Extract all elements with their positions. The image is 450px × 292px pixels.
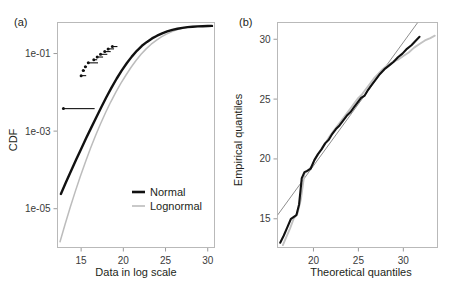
panel-a-xtick-label: 25 — [160, 255, 172, 266]
ecdf-step-marker — [87, 61, 90, 64]
panel-b-frame — [278, 23, 438, 248]
panel-a-xtick-label: 30 — [202, 255, 214, 266]
panel-a-label: (a) — [14, 16, 27, 28]
panel-b-ylabel: Empirical quantiles — [232, 93, 244, 186]
panel-b-xtick-label: 25 — [353, 255, 365, 266]
panel-a-yticks: 1e-011e-031e-05 — [25, 48, 58, 214]
panel-b-svg: (b) Empirical quantiles Theoretical quan… — [225, 0, 450, 292]
panel-a-frame — [58, 23, 215, 248]
panel-b-xticks: 202530 — [308, 248, 409, 266]
ecdf-step-marker — [99, 53, 102, 56]
panel-a-xtick-label: 15 — [76, 255, 88, 266]
panel-b-ytick-label: 30 — [259, 34, 271, 45]
panel-b-ytick-label: 15 — [259, 213, 271, 224]
panel-a-xticks: 15202530 — [76, 248, 214, 266]
panel-b: (b) Empirical quantiles Theoretical quan… — [225, 0, 450, 292]
panel-b-xtick-label: 30 — [398, 255, 410, 266]
panel-a-svg: (a) CDF Data in log scale 1e-011e-031e-0… — [0, 0, 225, 292]
ecdf-step-marker — [111, 45, 114, 48]
ecdf-step-marker — [92, 58, 95, 61]
panel-a-legend: NormalLognormal — [132, 186, 202, 212]
panel-b-plot — [278, 23, 435, 246]
ecdf-step-marker — [96, 56, 99, 59]
panel-b-label: (b) — [239, 16, 252, 28]
qq-reference-line — [278, 23, 418, 216]
panel-b-xlabel: Theoretical quantiles — [310, 266, 412, 278]
legend-label-normal: Normal — [150, 186, 185, 198]
ecdf-step-marker — [62, 107, 65, 110]
ecdf-step-marker — [103, 50, 106, 53]
panel-b-ytick-label: 20 — [259, 153, 271, 164]
panel-b-ytick-label: 25 — [259, 94, 271, 105]
qq-curve-lognormal — [283, 36, 435, 245]
panel-b-yticks: 15202530 — [259, 34, 277, 225]
panel-a-ytick-label: 1e-05 — [25, 203, 51, 214]
ecdf-step-marker — [82, 69, 85, 72]
panel-a-xtick-label: 20 — [118, 255, 130, 266]
panel-a: (a) CDF Data in log scale 1e-011e-031e-0… — [0, 0, 225, 292]
ecdf-step-marker — [80, 74, 83, 77]
panel-b-xtick-label: 20 — [308, 255, 320, 266]
ecdf-step-marker — [107, 47, 110, 50]
qq-curve-normal — [280, 37, 419, 243]
panel-a-ylabel: CDF — [7, 128, 19, 151]
panel-a-xlabel: Data in log scale — [95, 266, 176, 278]
panel-b-series — [278, 23, 435, 246]
ecdf-step-marker — [84, 65, 87, 68]
panel-a-ytick-label: 1e-03 — [25, 126, 51, 137]
figure-container: (a) CDF Data in log scale 1e-011e-031e-0… — [0, 0, 450, 292]
legend-label-lognormal: Lognormal — [150, 200, 202, 212]
panel-a-ytick-label: 1e-01 — [25, 48, 51, 59]
